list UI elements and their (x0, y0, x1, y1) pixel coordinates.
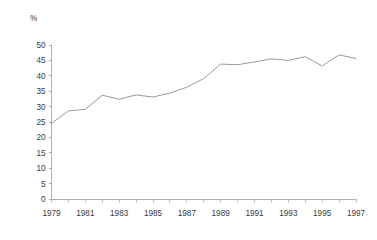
y-axis-tick-label: 5 (41, 180, 46, 189)
x-axis-tick-label: 1997 (347, 209, 366, 218)
y-axis-tick-label: 40 (36, 72, 46, 81)
y-axis-unit-label: % (30, 14, 37, 23)
x-axis (52, 199, 357, 203)
x-axis-tick-label: 1983 (110, 209, 129, 218)
y-axis-tick-label: 35 (36, 87, 46, 96)
x-axis-tick-label: 1995 (313, 209, 332, 218)
y-axis-tick-label: 30 (36, 103, 46, 112)
y-axis-tick-label: 0 (41, 195, 46, 204)
data-series-group (52, 55, 357, 124)
x-axis-tick-label: 1981 (76, 209, 95, 218)
y-axis-tick-labels: 05101520253035404550 (36, 41, 46, 204)
chart-container: % 05101520253035404550 19791981198319851… (0, 0, 377, 240)
x-axis-tick-label: 1991 (245, 209, 264, 218)
y-axis (49, 45, 52, 199)
x-axis-tick-label: 1993 (279, 209, 298, 218)
line-chart: % 05101520253035404550 19791981198319851… (0, 0, 377, 240)
y-axis-tick-label: 10 (36, 164, 46, 173)
y-axis-tick-label: 50 (36, 41, 46, 50)
y-axis-unit-label-group: % (30, 14, 37, 23)
x-axis-tick-labels: 1979198119831985198719891991199319951997 (42, 209, 365, 218)
data-series-line (52, 55, 357, 124)
x-axis-tick-label: 1989 (212, 209, 231, 218)
x-axis-tick-label: 1985 (144, 209, 163, 218)
y-axis-tick-label: 20 (36, 133, 46, 142)
x-axis-tick-label: 1987 (178, 209, 197, 218)
x-axis-tick-label: 1979 (42, 209, 61, 218)
y-axis-tick-label: 15 (36, 149, 46, 158)
y-axis-tick-label: 45 (36, 56, 46, 65)
y-axis-tick-label: 25 (36, 118, 46, 127)
